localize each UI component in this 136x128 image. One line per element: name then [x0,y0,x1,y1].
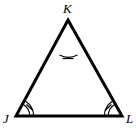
triangle-outline [16,20,122,116]
vertex-label-j: J [3,111,10,126]
vertex-label-l: L [125,111,133,126]
vertex-label-k: K [62,1,73,16]
geometry-figure: K J L [0,0,136,128]
triangle-jkl-svg: K J L [0,0,136,128]
